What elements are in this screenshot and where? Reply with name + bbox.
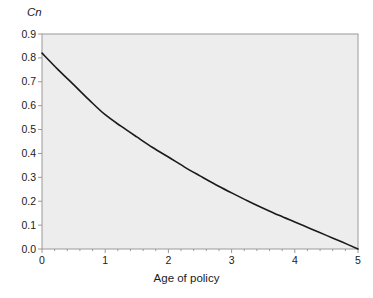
plot-background (42, 34, 358, 249)
chart-figure: Cn 0.9 0.8 0.7 0.6 0.5 0.4 0.3 0.2 0.1 0… (0, 0, 373, 298)
plot-area-svg (0, 0, 373, 298)
